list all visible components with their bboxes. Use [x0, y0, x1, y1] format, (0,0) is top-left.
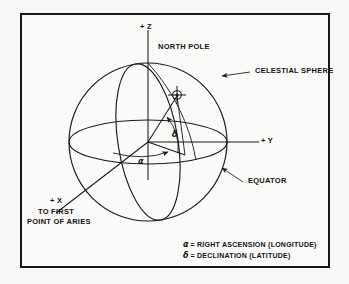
object-marker-icon: [168, 86, 186, 104]
legend: α = RIGHT ASCENSION (LONGITUDE) δ = DECL…: [183, 240, 317, 260]
figure-canvas: + Z NORTH POLE + Y CELESTIAL SPHERE EQUA…: [0, 0, 349, 284]
legend-alpha-text: = RIGHT ASCENSION (LONGITUDE): [191, 240, 317, 249]
celestial-sphere-label: CELESTIAL SPHERE: [255, 66, 333, 76]
legend-delta-text: = DECLINATION (LATITUDE): [191, 251, 291, 260]
legend-delta-symbol: δ: [183, 251, 189, 260]
equator-leader: [222, 168, 243, 182]
x-axis-sub-line1: TO FIRST: [38, 207, 74, 217]
delta-angle-label: δ: [172, 130, 178, 139]
z-axis-label: + Z: [140, 22, 152, 32]
legend-row-delta: δ = DECLINATION (LATITUDE): [183, 251, 317, 260]
x-axis-label: + X: [50, 196, 62, 206]
north-pole-label: NORTH POLE: [158, 42, 210, 52]
x-axis-sub-line2: POINT OF ARIES: [27, 217, 91, 227]
y-axis-label: + Y: [261, 136, 273, 146]
alpha-angle-label: α: [138, 157, 144, 166]
legend-alpha-symbol: α: [183, 240, 189, 249]
legend-row-alpha: α = RIGHT ASCENSION (LONGITUDE): [183, 240, 317, 249]
celestial-sphere-leader: [222, 72, 250, 76]
equator-label: EQUATOR: [248, 176, 287, 186]
